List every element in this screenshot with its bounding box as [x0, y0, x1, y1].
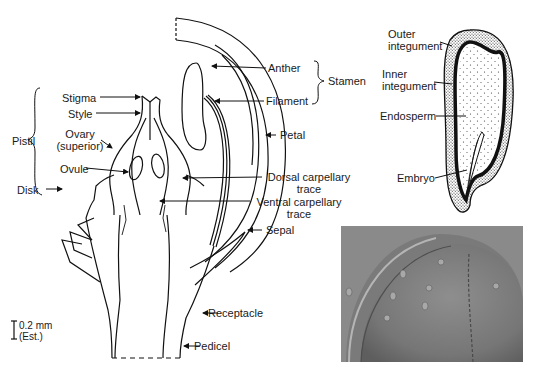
label-ventral-line2: trace — [287, 208, 311, 220]
stamen-bracket — [312, 61, 324, 104]
label-style: Style — [68, 108, 92, 120]
label-ventral-line1: Ventral carpellary — [257, 196, 342, 208]
label-outer-line2: integument — [388, 40, 442, 52]
seed-section-drawing — [434, 30, 513, 212]
sem-micrograph — [341, 226, 523, 362]
label-endosperm: Endosperm — [380, 110, 436, 122]
scale-bar-note: (Est.) — [19, 331, 43, 342]
label-inner-line1: Inner — [382, 68, 407, 80]
label-inner-line2: integument — [382, 80, 436, 92]
label-pedicel: Pedicel — [194, 340, 230, 352]
label-pistil: Pistil — [12, 135, 35, 147]
label-ovary-line1: Ovary — [65, 128, 94, 140]
label-receptacle: Receptacle — [208, 307, 263, 319]
label-embryo: Embryo — [397, 172, 435, 184]
label-stigma: Stigma — [62, 92, 96, 104]
label-outer-integument: Outer integument — [388, 28, 442, 52]
scale-bar-label: 0.2 mm (Est.) — [19, 320, 52, 342]
label-ovary: Ovary (superior) — [52, 128, 108, 152]
label-anther: Anther — [268, 62, 300, 74]
label-ovule: Ovule — [60, 163, 89, 175]
label-inner-integument: Inner integument — [382, 68, 436, 92]
label-ventral-carpellary-trace: Ventral carpellary trace — [244, 196, 354, 220]
label-dorsal-line1: Dorsal carpellary — [268, 171, 351, 183]
label-sepal: Sepal — [266, 224, 294, 236]
label-dorsal-carpellary-trace: Dorsal carpellary trace — [254, 171, 364, 195]
scale-bar-value: 0.2 mm — [19, 320, 52, 331]
label-filament: Filament — [266, 95, 308, 107]
label-petal: Petal — [280, 129, 305, 141]
label-dorsal-line2: trace — [297, 183, 321, 195]
label-disk: Disk — [17, 184, 38, 196]
scale-bar — [11, 321, 17, 339]
label-outer-line1: Outer — [388, 28, 416, 40]
label-stamen: Stamen — [328, 75, 366, 87]
label-ovary-line2: (superior) — [56, 140, 103, 152]
